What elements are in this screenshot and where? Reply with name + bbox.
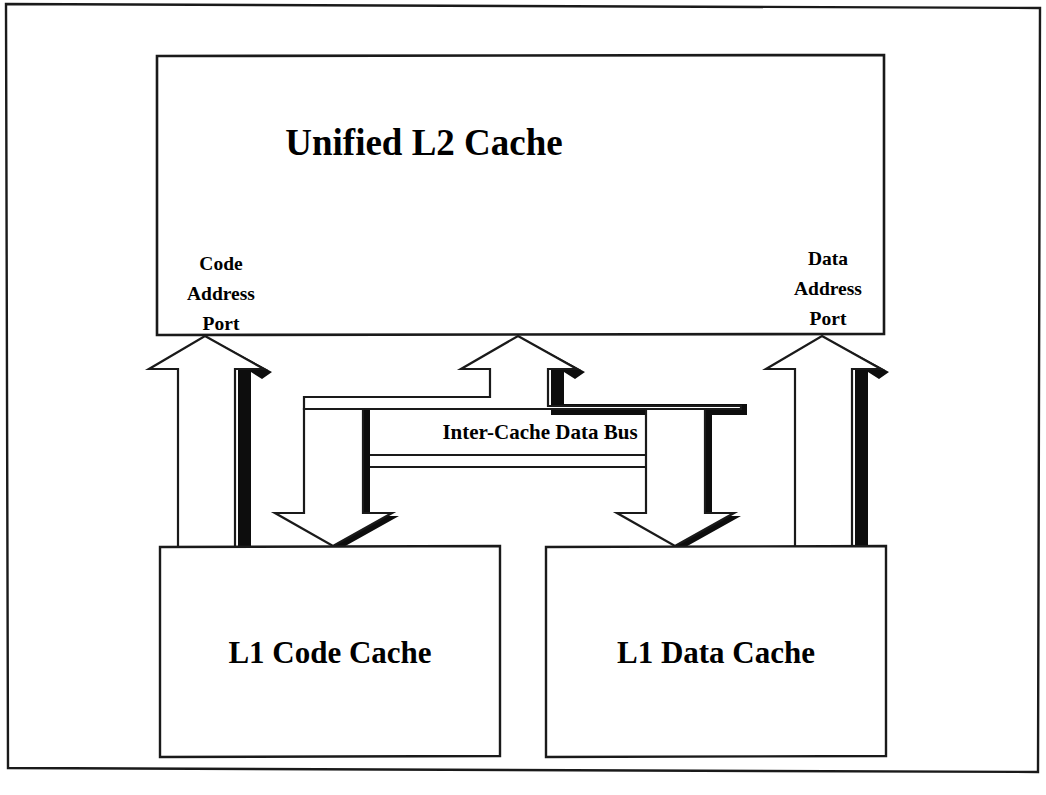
bus-to-l2-arrow <box>304 336 747 415</box>
l1-data-cache-box: L1 Data Cache <box>546 546 886 757</box>
l2-box-fill <box>157 55 884 335</box>
code-port-line-1: Code <box>199 253 243 274</box>
l1-code-cache-box: L1 Code Cache <box>160 546 500 757</box>
data-port-line-2: Address <box>794 278 862 299</box>
l1-data-cache-title: L1 Data Cache <box>617 635 815 670</box>
data-address-arrow <box>766 336 889 547</box>
inter-cache-bus-channel <box>352 455 692 513</box>
data-port-line-3: Port <box>810 308 847 329</box>
bus-to-l1-code-arrow <box>275 409 399 549</box>
inter-cache-bus-label: Inter-Cache Data Bus <box>442 420 637 444</box>
inter-cache-data-bus: Inter-Cache Data Bus <box>352 420 692 513</box>
cache-hierarchy-diagram: Unified L2 Cache Code Address Port Data … <box>0 0 1046 795</box>
l2-title: Unified L2 Cache <box>285 122 563 163</box>
l1-code-cache-title: L1 Code Cache <box>228 635 431 670</box>
bus-to-l2-arrow-body <box>304 336 741 409</box>
data-port-line-1: Data <box>808 248 848 269</box>
unified-l2-cache-box: Unified L2 Cache Code Address Port Data … <box>157 55 884 335</box>
bus-to-l2-arrow-shadow <box>518 339 747 415</box>
code-port-line-2: Address <box>187 283 255 304</box>
code-port-line-3: Port <box>203 313 240 334</box>
code-address-arrow <box>149 336 272 547</box>
diagram-canvas: Unified L2 Cache Code Address Port Data … <box>0 0 1046 795</box>
